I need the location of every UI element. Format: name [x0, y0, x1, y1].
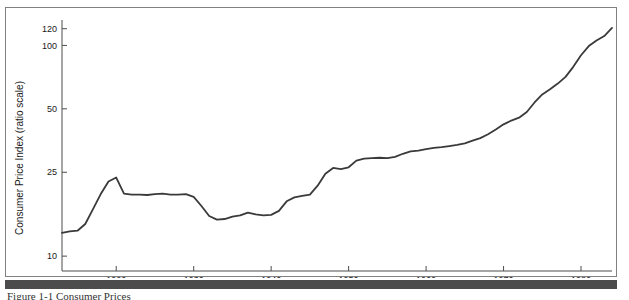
x-tick-label: 1980	[571, 275, 591, 278]
y-tick-label: 50	[47, 104, 57, 114]
x-tick-label: 1920	[106, 275, 126, 278]
figure-footer-bar	[5, 280, 617, 289]
x-tick-label: 1970	[494, 275, 514, 278]
figure-caption: Figure 1-1 Consumer Prices	[7, 291, 407, 300]
figure-root: 102550100120 192019301940195019601970198…	[0, 0, 629, 300]
y-axis-title: Consumer Price Index (ratio scale)	[14, 81, 25, 235]
figure-frame: 102550100120 192019301940195019601970198…	[5, 7, 617, 277]
cpi-data-line	[62, 28, 612, 233]
x-tick-label: 1930	[184, 275, 204, 278]
y-tick-label: 25	[47, 167, 57, 177]
y-axis-ticks: 102550100120	[42, 24, 67, 261]
x-tick-label: 1960	[416, 275, 436, 278]
y-tick-label: 10	[47, 251, 57, 261]
x-axis-ticks: 1920193019401950196019701980	[106, 266, 591, 278]
chart-plot-area: 102550100120 192019301940195019601970198…	[6, 8, 618, 278]
y-tick-label: 100	[42, 41, 57, 51]
x-tick-label: 1940	[261, 275, 281, 278]
y-tick-label: 120	[42, 24, 57, 34]
x-tick-label: 1950	[339, 275, 359, 278]
cpi-line-chart: 102550100120 192019301940195019601970198…	[6, 8, 618, 278]
